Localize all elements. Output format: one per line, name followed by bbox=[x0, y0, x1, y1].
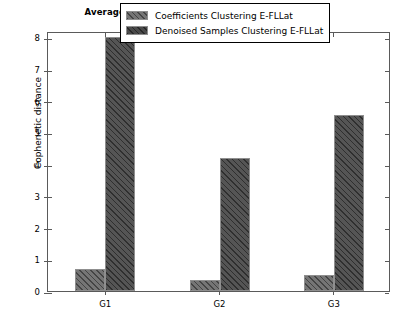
y-tick-mark bbox=[48, 261, 52, 262]
plot-area: 012345678 G1G2G3 bbox=[47, 32, 390, 292]
y-tick-mark-outer bbox=[44, 166, 48, 167]
y-tick-mark bbox=[385, 197, 389, 198]
y-tick-mark-outer bbox=[44, 197, 48, 198]
chart-legend: Coefficients Clustering E-FLLat Denoised… bbox=[120, 3, 330, 43]
y-tick-mark bbox=[48, 102, 52, 103]
chart-figure: Average cophenetic distance within each … bbox=[0, 0, 404, 324]
x-tick-label: G3 bbox=[309, 299, 359, 309]
y-tick-mark bbox=[385, 261, 389, 262]
legend-item-1: Denoised Samples Clustering E-FLLat bbox=[126, 23, 323, 38]
bar-G3-series-0 bbox=[304, 275, 334, 291]
y-axis-label: Cophenetic distance bbox=[33, 0, 43, 253]
x-tick-mark-outer bbox=[333, 291, 334, 295]
bar-G2-series-0 bbox=[190, 280, 220, 291]
y-tick-mark-outer bbox=[44, 102, 48, 103]
x-tick-label: G1 bbox=[80, 299, 130, 309]
x-tick-mark-outer bbox=[219, 291, 220, 295]
legend-swatch-icon-0 bbox=[126, 11, 148, 20]
y-tick-mark bbox=[48, 134, 52, 135]
y-tick-label: 0 bbox=[22, 287, 40, 297]
bar-G2-series-1 bbox=[220, 158, 250, 291]
bar-G1-series-0 bbox=[75, 269, 105, 291]
x-tick-label: G2 bbox=[195, 299, 245, 309]
y-tick-mark-outer bbox=[44, 71, 48, 72]
y-tick-mark bbox=[48, 71, 52, 72]
bar-G3-series-1 bbox=[334, 115, 364, 291]
y-tick-label: 1 bbox=[22, 255, 40, 265]
y-tick-mark-outer bbox=[44, 229, 48, 230]
legend-label-1: Denoised Samples Clustering E-FLLat bbox=[155, 26, 323, 36]
y-tick-mark-outer bbox=[44, 134, 48, 135]
y-tick-mark bbox=[385, 166, 389, 167]
legend-swatch-icon-1 bbox=[126, 26, 148, 35]
x-tick-mark-outer bbox=[105, 291, 106, 295]
y-tick-mark-outer bbox=[44, 39, 48, 40]
y-tick-mark bbox=[385, 293, 389, 294]
legend-label-0: Coefficients Clustering E-FLLat bbox=[155, 11, 293, 21]
bar-G1-series-1 bbox=[105, 37, 135, 291]
y-tick-mark bbox=[385, 134, 389, 135]
y-tick-mark-outer bbox=[44, 293, 48, 294]
y-tick-mark bbox=[385, 229, 389, 230]
y-tick-mark bbox=[48, 229, 52, 230]
y-tick-mark-outer bbox=[44, 261, 48, 262]
y-tick-mark bbox=[385, 102, 389, 103]
x-tick-mark bbox=[333, 33, 334, 37]
y-tick-mark bbox=[48, 197, 52, 198]
y-tick-mark bbox=[385, 39, 389, 40]
legend-item-0: Coefficients Clustering E-FLLat bbox=[126, 8, 323, 23]
y-tick-mark bbox=[48, 166, 52, 167]
y-tick-mark bbox=[48, 39, 52, 40]
y-tick-mark bbox=[385, 71, 389, 72]
y-tick-mark bbox=[48, 293, 52, 294]
